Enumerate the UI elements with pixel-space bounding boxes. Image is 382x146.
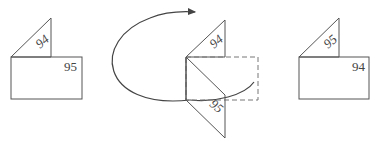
rotation-arrow-tail xyxy=(190,82,254,101)
middle-bottom-label: 95 xyxy=(207,96,227,116)
diagram-canvas: 94 95 94 95 95 94 xyxy=(0,0,382,146)
rotation-arrow-icon xyxy=(112,12,195,101)
right-page-label: 94 xyxy=(352,59,366,74)
middle-dashed-page xyxy=(186,57,258,100)
left-flap-label: 94 xyxy=(32,31,52,51)
middle-top-label: 94 xyxy=(206,31,226,51)
left-page-label: 95 xyxy=(64,59,77,74)
right-figure: 95 94 xyxy=(299,18,369,99)
middle-figure: 94 95 xyxy=(112,12,258,138)
left-figure: 94 95 xyxy=(11,18,82,99)
right-flap-label: 95 xyxy=(320,31,340,51)
